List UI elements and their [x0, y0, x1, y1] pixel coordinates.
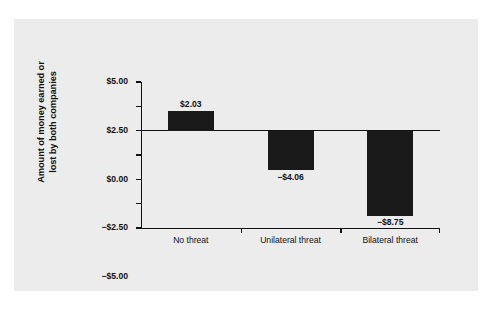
y-tick-label: $5.00: [106, 76, 128, 86]
y-tick-label: −$5.00: [101, 271, 128, 281]
y-tick-mark: $0.00: [136, 130, 141, 131]
y-tick-mark: −$2.50: [136, 154, 141, 155]
x-tick-mark: [241, 228, 242, 233]
y-axis-line: [141, 82, 142, 228]
bar-value-label: −$4.06: [277, 172, 304, 182]
y-tick-label: $0.00: [106, 174, 128, 184]
x-tick-mark: [439, 228, 440, 233]
y-tick-mark: −$7.50: [136, 203, 141, 204]
x-axis-line: [141, 228, 440, 229]
y-tick-mark: $2.50: [136, 106, 141, 107]
bar-value-label: −$8.75: [377, 217, 404, 227]
y-tick-mark: $5.00: [136, 81, 141, 82]
bar: [268, 131, 314, 171]
bar: [168, 111, 214, 131]
bar: [367, 131, 413, 216]
y-axis-title-line-2: lost by both companies: [47, 71, 60, 173]
plot-area: $5.00$2.50$0.00−$2.50−$5.00−$7.50−$10.00…: [141, 82, 440, 228]
y-axis-title-line-1: Amount of money earned or: [35, 61, 48, 182]
x-tick-mark: [340, 228, 341, 233]
y-tick-label: −$2.50: [101, 222, 128, 232]
category-label: No threat: [173, 235, 208, 245]
figure-panel: Amount of money earned or lost by both c…: [14, 19, 478, 291]
y-tick-label: $2.50: [106, 125, 128, 135]
bar-value-label: $2.03: [180, 99, 202, 109]
y-tick-mark: −$5.00: [136, 179, 141, 180]
y-tick-mark: −$10.00: [136, 227, 141, 228]
y-axis-title: Amount of money earned or lost by both c…: [30, 42, 64, 202]
category-label: Bilateral threat: [362, 235, 417, 245]
category-label: Unilateral threat: [260, 235, 321, 245]
